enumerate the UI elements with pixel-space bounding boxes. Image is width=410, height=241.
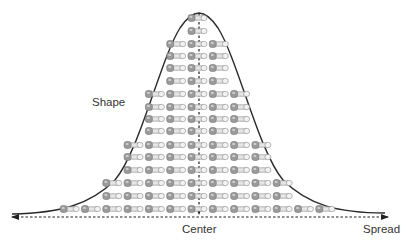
bolt-icon	[231, 167, 250, 174]
bolt-icon	[252, 154, 271, 161]
bolt-rows	[60, 15, 335, 213]
bolt-icon	[145, 91, 164, 98]
bolt-icon	[145, 104, 164, 111]
shape-label: Shape	[92, 97, 125, 109]
bolt-row	[124, 167, 271, 174]
bolt-icon	[124, 167, 143, 174]
bolt-icon	[295, 206, 314, 213]
bolt-icon	[188, 91, 207, 98]
bolt-icon	[252, 167, 271, 174]
bolt-icon	[316, 206, 335, 213]
bolt-icon	[188, 41, 207, 48]
bolt-icon	[167, 180, 186, 187]
bolt-icon	[209, 41, 228, 48]
spread-label: Spread	[363, 224, 400, 236]
bolt-row	[145, 91, 249, 98]
bolt-icon	[145, 116, 164, 123]
bolt-row	[124, 154, 271, 161]
bolt-icon	[231, 142, 250, 149]
distribution-diagram	[0, 0, 410, 241]
bolt-icon	[188, 116, 207, 123]
bolt-row	[103, 180, 292, 187]
bolt-icon	[124, 154, 143, 161]
bolt-icon	[252, 180, 271, 187]
bolt-icon	[188, 167, 207, 174]
bolt-icon	[231, 91, 250, 98]
bolt-icon	[124, 193, 143, 200]
bolt-icon	[188, 193, 207, 200]
bolt-icon	[209, 154, 228, 161]
bolt-icon	[252, 206, 271, 213]
bolt-icon	[231, 206, 250, 213]
bolt-icon	[209, 128, 228, 135]
bolt-icon	[188, 180, 207, 187]
bolt-icon	[209, 142, 228, 149]
bolt-icon	[188, 65, 207, 72]
bolt-icon	[188, 53, 207, 60]
bolt-icon	[209, 104, 228, 111]
bolt-row	[167, 78, 229, 85]
bolt-row	[167, 65, 229, 72]
bolt-icon	[209, 91, 228, 98]
bolt-icon	[231, 154, 250, 161]
bolt-icon	[273, 180, 292, 187]
bolt-icon	[167, 116, 186, 123]
bolt-row	[60, 206, 335, 213]
bolt-icon	[82, 206, 101, 213]
bolt-icon	[188, 15, 207, 22]
bolt-icon	[252, 142, 271, 149]
bolt-icon	[167, 193, 186, 200]
bolt-icon	[124, 206, 143, 213]
bolt-icon	[103, 206, 122, 213]
bolt-icon	[124, 180, 143, 187]
bolt-icon	[124, 142, 143, 149]
bolt-icon	[209, 65, 228, 72]
bolt-icon	[188, 128, 207, 135]
bolt-icon	[145, 128, 164, 135]
bolt-icon	[188, 142, 207, 149]
bolt-icon	[231, 193, 250, 200]
bolt-row	[103, 193, 292, 200]
center-label: Center	[182, 224, 217, 236]
bolt-row	[145, 128, 249, 135]
bolt-icon	[167, 142, 186, 149]
bolt-icon	[231, 104, 250, 111]
bolt-icon	[145, 154, 164, 161]
bolt-icon	[188, 78, 207, 85]
bolt-row	[167, 41, 229, 48]
bolt-icon	[167, 167, 186, 174]
bolt-icon	[167, 91, 186, 98]
bolt-icon	[209, 53, 228, 60]
bolt-row	[145, 116, 249, 123]
bolt-icon	[252, 193, 271, 200]
bolt-icon	[145, 142, 164, 149]
bolt-icon	[167, 53, 186, 60]
bolt-icon	[167, 65, 186, 72]
bolt-icon	[188, 28, 207, 35]
bolt-icon	[145, 167, 164, 174]
bolt-icon	[273, 206, 292, 213]
bolt-icon	[167, 154, 186, 161]
bolt-row	[145, 104, 249, 111]
bolt-icon	[209, 167, 228, 174]
bolt-icon	[209, 116, 228, 123]
bolt-icon	[188, 206, 207, 213]
bolt-icon	[231, 128, 250, 135]
bolt-icon	[209, 206, 228, 213]
bolt-icon	[209, 78, 228, 85]
bolt-icon	[231, 180, 250, 187]
bolt-row	[167, 53, 229, 60]
bolt-icon	[145, 180, 164, 187]
bolt-icon	[273, 193, 292, 200]
bolt-icon	[167, 41, 186, 48]
bolt-icon	[231, 116, 250, 123]
bolt-icon	[60, 206, 79, 213]
bolt-icon	[209, 180, 228, 187]
bolt-icon	[167, 206, 186, 213]
bolt-row	[188, 28, 207, 35]
bolt-icon	[188, 104, 207, 111]
bolt-icon	[167, 78, 186, 85]
bolt-row	[124, 142, 271, 149]
bolt-icon	[103, 193, 122, 200]
bolt-icon	[188, 154, 207, 161]
